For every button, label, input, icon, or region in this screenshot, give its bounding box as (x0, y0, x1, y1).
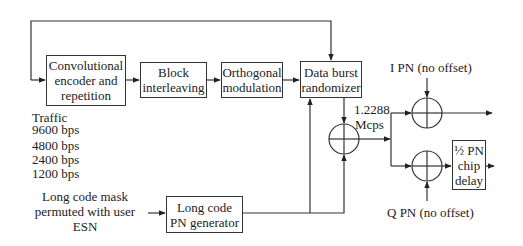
half-pn-chip-delay-block: ½ PN chip delay (452, 140, 486, 190)
q-pn-label: Q PN (no offset) (387, 205, 471, 220)
long-code-mask-label: Long code mask permuted with user ESN (30, 189, 140, 234)
long-code-pn-generator-block: Long code PN generator (166, 196, 243, 233)
data-burst-randomizer-block: Data burst randomizer (300, 61, 362, 98)
convolutional-encoder-block: Convolutional encoder and repetition (46, 55, 126, 106)
rate-label: 4800 bps (32, 138, 79, 153)
rate-label: 9600 bps (32, 122, 79, 137)
block-interleaving-block: Block interleaving (140, 62, 207, 98)
chip-rate-unit: Mcps (355, 117, 384, 132)
rate-label: 2400 bps (32, 152, 79, 167)
rate-label: 1200 bps (32, 166, 79, 181)
orthogonal-modulation-block: Orthogonal modulation (221, 62, 283, 98)
i-pn-label: I PN (no offset) (390, 60, 470, 75)
chip-rate-value: 1.2288 (354, 102, 390, 117)
